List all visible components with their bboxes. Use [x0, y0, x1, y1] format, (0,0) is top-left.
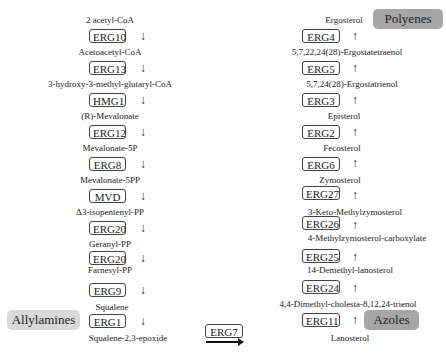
metabolite-squalene-epoxide: Squalene-2,3-epoxide [89, 333, 168, 344]
inhibitor-badge-allylamines: Allylamines [7, 310, 80, 330]
enzyme-erg26: ERG26 [302, 216, 340, 230]
arrow-up-icon: ↑ [351, 94, 359, 106]
enzyme-erg20-a: ERG20 [89, 221, 126, 235]
enzyme-hmg1: HMG1 [89, 93, 126, 107]
metabolite-mevalonate: (R)-Mevalonate [81, 111, 138, 122]
enzyme-erg5: ERG5 [302, 61, 340, 75]
enzyme-erg4: ERG4 [302, 29, 340, 43]
arrow-up-icon: ↑ [351, 126, 359, 138]
arrow-up-icon: ↑ [351, 282, 359, 294]
enzyme-erg13: ERG13 [89, 61, 126, 75]
metabolite-lanosterol: Lanosterol [331, 333, 370, 344]
enzyme-erg25: ERG25 [302, 249, 340, 263]
metabolite-mevalonate-5p: Mevalonate-5P [83, 143, 138, 154]
arrow-down-icon: ↓ [139, 62, 147, 74]
enzyme-erg10: ERG10 [89, 29, 126, 43]
metabolite-acetoacetyl-coa: Acetoacetyl-CoA [79, 47, 142, 58]
metabolite-demethyl-lanosterol: 14-Demethyl-lanosterol [307, 265, 393, 276]
metabolite-geranyl-pp: Geranyl-PP [89, 239, 131, 250]
metabolite-ergostatrienol: 5,7,24(28)-Ergostatrienol [306, 79, 397, 90]
enzyme-erg27: ERG27 [302, 186, 340, 200]
metabolite-isopentenyl-pp: Δ3-isopentenyl-PP [76, 207, 144, 218]
enzyme-erg20-b: ERG20 [89, 251, 126, 265]
metabolite-methylzymosterol-carboxylate: 4-Methylzymosterol-carboxylate [308, 233, 426, 244]
metabolite-fecosterol: Fecosterol [323, 143, 361, 154]
enzyme-mvd: MVD [89, 189, 126, 203]
metabolite-farnesyl-pp: Farnesyl-PP [88, 265, 132, 276]
enzyme-erg11: ERG11 [302, 313, 340, 327]
metabolite-mevalonate-5pp: Mevalonate-5PP [80, 175, 140, 186]
metabolite-squalene: Squalene [96, 302, 129, 313]
enzyme-erg3: ERG3 [302, 93, 340, 107]
metabolite-hmg-coa: 3-hydroxy-3-methyl-glutaryl-CoA [48, 79, 172, 90]
metabolite-zymosterol: Zymosterol [319, 175, 361, 186]
arrow-down-icon: ↓ [139, 252, 147, 264]
arrow-up-icon: ↑ [351, 157, 359, 169]
metabolite-ergostatetraenol: 5,7,22,24(28)-Ergostatetraenol [292, 47, 403, 58]
inhibitor-badge-azoles: Azoles [364, 310, 419, 330]
enzyme-erg9: ERG9 [89, 283, 126, 297]
enzyme-erg1: ERG1 [89, 314, 126, 328]
arrow-down-icon: ↓ [139, 284, 147, 296]
metabolite-dimethyl-cholesta-trienol: 4,4-Dimethyl-cholesta-8,12,24-trienol [279, 299, 416, 310]
enzyme-erg2: ERG2 [302, 125, 340, 139]
metabolite-ergosterol: Ergosterol [325, 15, 362, 26]
enzyme-erg8: ERG8 [89, 157, 126, 171]
arrow-down-icon: ↓ [139, 94, 147, 106]
metabolite-acetyl-coa: 2 acetyl-CoA [86, 15, 134, 26]
arrow-up-icon: ↑ [351, 30, 359, 42]
arrow-down-icon: ↓ [139, 158, 147, 170]
enzyme-erg7: ERG7 [205, 324, 243, 338]
metabolite-episterol: Episterol [328, 111, 361, 122]
arrow-down-icon: ↓ [139, 190, 147, 202]
enzyme-erg6: ERG6 [302, 157, 340, 171]
arrow-down-icon: ↓ [139, 315, 147, 327]
arrow-down-icon: ↓ [139, 126, 147, 138]
inhibitor-badge-polyenes: Polyenes [373, 9, 443, 29]
arrow-right-icon [206, 341, 243, 343]
arrow-down-icon: ↓ [139, 222, 147, 234]
arrow-up-icon: ↑ [351, 189, 359, 201]
enzyme-erg12: ERG12 [89, 125, 126, 139]
arrow-up-icon: ↑ [351, 251, 359, 263]
arrow-up-icon: ↑ [351, 314, 359, 326]
arrow-down-icon: ↓ [139, 30, 147, 42]
arrow-up-icon: ↑ [351, 62, 359, 74]
arrow-up-icon: ↑ [351, 219, 359, 231]
enzyme-erg24: ERG24 [302, 280, 340, 294]
